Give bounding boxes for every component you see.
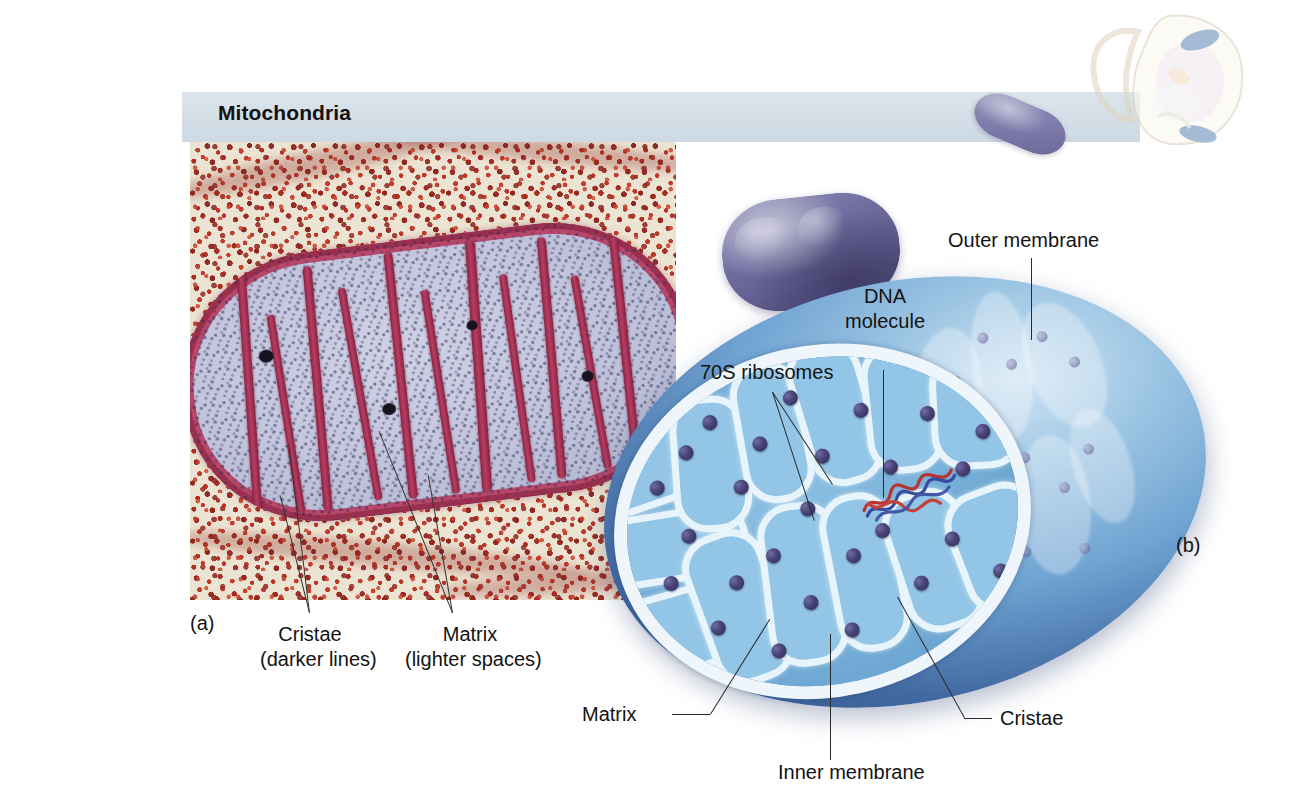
label-cristae-micrograph: Cristae (darker lines): [260, 622, 360, 672]
figure-title: Mitochondria: [218, 101, 351, 125]
label-cristae-line1: Cristae: [260, 622, 360, 647]
label-inner-membrane: Inner membrane: [778, 760, 925, 785]
label-cristae-illustration: Cristae: [1000, 706, 1063, 731]
label-70s-ribosomes: 70S ribosomes: [700, 360, 833, 385]
leader-line-outer-membrane: [1031, 258, 1032, 340]
label-matrix-line1: Matrix: [405, 622, 535, 647]
leader-line-matrix-b: [672, 714, 710, 715]
leader-line-inner-membrane: [830, 634, 831, 760]
cell-overview-inset: [1072, 8, 1248, 150]
cell-projection: [1094, 31, 1138, 120]
label-dna-line1: DNA: [838, 284, 932, 309]
label-matrix-micrograph: Matrix (lighter spaces): [405, 622, 535, 672]
label-matrix-line2: (lighter spaces): [405, 647, 535, 672]
panel-b-letter: (b): [1176, 534, 1200, 557]
leader-line-dna: [883, 370, 884, 498]
label-matrix-illustration: Matrix: [582, 702, 636, 727]
label-cristae-line2: (darker lines): [260, 647, 360, 672]
mitochondria-figure: Mitochondria: [0, 0, 1316, 808]
label-outer-membrane: Outer membrane: [948, 228, 1099, 253]
panel-a-letter: (a): [190, 612, 214, 635]
label-dna-line2: molecule: [838, 309, 932, 334]
leader-line-cristae-b: [964, 718, 992, 719]
label-dna-molecule: DNA molecule: [838, 284, 932, 334]
